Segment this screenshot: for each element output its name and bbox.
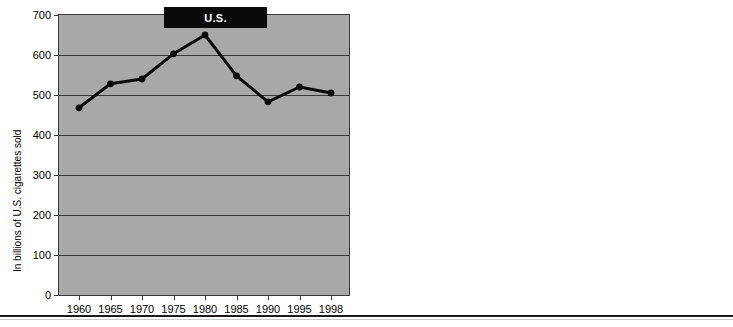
x-tick-mark: [111, 295, 112, 300]
footer-divider-rule-secondary: [0, 319, 733, 320]
data-point-marker: [139, 76, 146, 83]
data-point-marker: [233, 72, 240, 79]
x-tick-label: 1998: [319, 303, 343, 315]
chart-panel-us: In billions of U.S. cigarettes sold 0100…: [0, 0, 370, 327]
y-tick-label: 300: [7, 169, 51, 181]
data-series-us: [59, 15, 349, 295]
y-tick-label: 200: [7, 209, 51, 221]
x-tick-label: 1975: [161, 303, 185, 315]
x-tick-label: 1995: [287, 303, 311, 315]
chart-panel-overseas: In billions of U.S. cigarettes sold 0501…: [370, 0, 733, 327]
x-tick-mark: [237, 295, 238, 300]
x-tick-label: 1985: [224, 303, 248, 315]
data-point-marker: [202, 32, 209, 39]
two-panel-line-chart-figure: In billions of U.S. cigarettes sold 0100…: [0, 0, 733, 327]
x-tick-mark: [268, 295, 269, 300]
x-tick-mark: [142, 295, 143, 300]
x-tick-mark: [174, 295, 175, 300]
y-tick-label: 600: [7, 49, 51, 61]
x-tick-mark: [331, 295, 332, 300]
data-point-marker: [265, 98, 272, 105]
footer-divider-rule: [0, 315, 733, 317]
y-tick-label: 0: [7, 289, 51, 301]
panel-banner-us: U.S.: [164, 7, 267, 28]
y-tick-label: 500: [7, 89, 51, 101]
x-tick-mark: [79, 295, 80, 300]
x-tick-label: 1965: [98, 303, 122, 315]
y-tick-label: 100: [7, 249, 51, 261]
data-point-marker: [107, 80, 114, 87]
x-tick-label: 1980: [193, 303, 217, 315]
x-tick-label: 1990: [256, 303, 280, 315]
series-line: [79, 35, 331, 108]
x-tick-mark: [300, 295, 301, 300]
y-tick-label: 400: [7, 129, 51, 141]
data-point-marker: [170, 50, 177, 57]
plot-area-us: 0100200300400500600700 19601965197019751…: [58, 14, 350, 296]
data-point-marker: [328, 90, 335, 97]
x-tick-label: 1960: [67, 303, 91, 315]
data-point-marker: [296, 84, 303, 91]
data-point-marker: [76, 104, 83, 111]
x-tick-mark: [205, 295, 206, 300]
x-tick-label: 1970: [130, 303, 154, 315]
y-tick-mark: [54, 295, 59, 296]
y-tick-label: 700: [7, 9, 51, 21]
